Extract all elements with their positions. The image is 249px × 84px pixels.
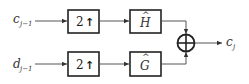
hat-accent: ^	[142, 52, 150, 62]
output-label-c: c j	[226, 35, 236, 51]
input-label-d: d j−1	[13, 57, 33, 73]
up-arrow-icon: ↑	[85, 59, 94, 72]
svg-text:j−1: j−1	[18, 65, 33, 73]
path-h-to-summer	[161, 21, 186, 34]
svg-text:c: c	[226, 35, 233, 49]
summer-node	[178, 35, 195, 52]
upsampler-top: 2 ↑	[68, 10, 99, 33]
up-arrow-icon: ↑	[85, 16, 94, 29]
filter-g-hat: G ^	[130, 52, 161, 76]
synthesis-filter-bank-diagram: c j−1 d j−1 2 ↑ 2 ↑ H ^ G ^	[0, 0, 249, 84]
input-label-c: c j−1	[13, 12, 33, 28]
path-g-to-summer	[161, 52, 186, 64]
svg-text:c: c	[13, 12, 20, 26]
svg-text:2: 2	[76, 15, 84, 29]
upsampler-bottom: 2 ↑	[68, 52, 99, 76]
svg-text:j−1: j−1	[18, 20, 33, 28]
hat-accent: ^	[142, 10, 150, 20]
filter-h-hat: H ^	[130, 10, 161, 33]
svg-text:2: 2	[76, 58, 84, 72]
